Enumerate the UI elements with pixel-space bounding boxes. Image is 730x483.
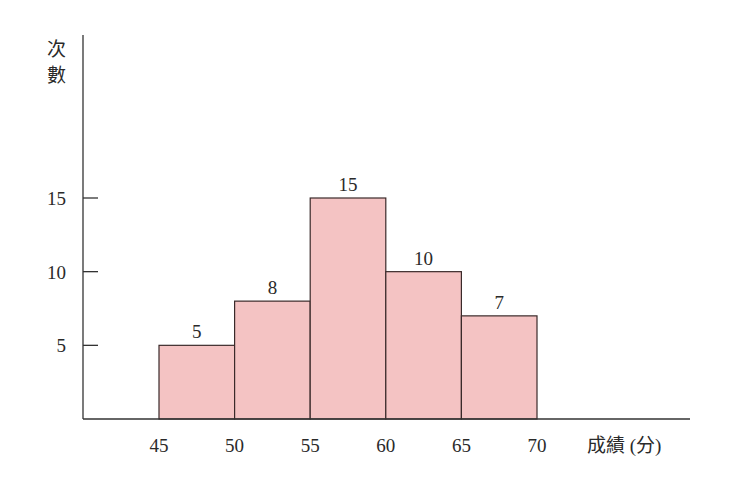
bar-value-label: 8: [268, 277, 278, 298]
histogram-bar: [159, 345, 235, 419]
y-tick-label: 15: [47, 188, 66, 209]
y-tick-label: 10: [47, 262, 66, 283]
histogram-bar: [386, 272, 462, 419]
histogram-bar: [461, 316, 537, 419]
x-tick-label: 70: [528, 435, 547, 456]
x-tick-label: 45: [150, 435, 169, 456]
histogram-bar: [235, 301, 311, 419]
x-tick-label: 65: [452, 435, 471, 456]
bar-value-label: 7: [494, 292, 504, 313]
x-tick-label: 55: [301, 435, 320, 456]
y-ticks: 51015: [47, 188, 98, 356]
y-axis-label-line1: 次: [47, 39, 66, 60]
y-axis-label-line2: 數: [47, 65, 66, 86]
x-tick-labels: 455055606570: [150, 435, 547, 456]
x-tick-label: 50: [225, 435, 244, 456]
bar-value-label: 10: [414, 248, 433, 269]
x-axis-label: 成績 (分): [587, 435, 661, 457]
bar-value-label: 15: [339, 174, 358, 195]
bars-group: [159, 198, 537, 419]
histogram-chart: 5815107 51015 455055606570 次 數 成績 (分): [0, 0, 730, 483]
histogram-bar: [310, 198, 386, 419]
y-tick-label: 5: [57, 335, 67, 356]
x-tick-label: 60: [376, 435, 395, 456]
bar-value-label: 5: [192, 321, 202, 342]
